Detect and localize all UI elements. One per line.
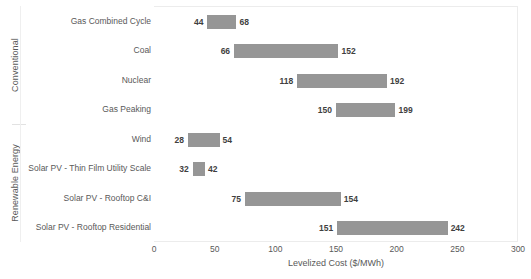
bar-low-value-label: 28 <box>175 133 184 147</box>
value-axis: 050100150200250300 <box>154 242 518 258</box>
x-axis-tick-label: 150 <box>329 244 343 254</box>
category-label: Solar PV - Rooftop Residential <box>36 222 151 232</box>
bar-low-value-label: 151 <box>319 221 333 235</box>
bar <box>234 44 338 58</box>
category-axis: Gas Combined CycleCoalNuclearGas Peaking… <box>22 6 154 242</box>
bar-high-value-label: 42 <box>208 162 217 176</box>
bar-high-value-label: 192 <box>390 74 404 88</box>
group-label-text: Conventional <box>10 38 20 92</box>
category-label: Solar PV - Rooftop C&I <box>64 193 151 203</box>
bar <box>337 221 447 235</box>
bar-low-value-label: 66 <box>221 44 230 58</box>
group-axis-line <box>20 6 21 242</box>
bar <box>245 192 341 206</box>
plot-area: 4468661521181921501992854324275154151242 <box>154 6 518 242</box>
levelized-cost-range-chart: ConventionalRenewable Energy Gas Combine… <box>0 0 531 279</box>
bar-low-value-label: 150 <box>318 103 332 117</box>
group-label-text: Renewable Energy <box>10 144 20 222</box>
category-label: Coal <box>134 45 151 55</box>
bar-high-value-label: 154 <box>344 192 358 206</box>
category-label: Solar PV - Thin Film Utility Scale <box>28 163 151 173</box>
bar <box>297 74 387 88</box>
bar <box>188 133 220 147</box>
category-label: Nuclear <box>122 75 151 85</box>
bar-low-value-label: 118 <box>279 74 293 88</box>
bar-high-value-label: 199 <box>398 103 412 117</box>
bar-high-value-label: 242 <box>451 221 465 235</box>
x-axis-tick-label: 300 <box>511 244 525 254</box>
bar-high-value-label: 68 <box>240 15 249 29</box>
bar <box>207 15 236 29</box>
bar <box>336 103 395 117</box>
x-axis-tick-label: 0 <box>152 244 157 254</box>
bar-high-value-label: 152 <box>341 44 355 58</box>
x-axis-tick-label: 100 <box>268 244 282 254</box>
bar-low-value-label: 44 <box>194 15 203 29</box>
x-axis-title: Levelized Cost ($/MWh) <box>154 258 518 268</box>
category-label: Wind <box>132 134 151 144</box>
x-axis-tick-label: 50 <box>210 244 219 254</box>
category-label: Gas Peaking <box>102 104 151 114</box>
bar-high-value-label: 54 <box>223 133 232 147</box>
x-axis-tick-label: 250 <box>450 244 464 254</box>
bar-low-value-label: 75 <box>232 192 241 206</box>
bar <box>193 162 205 176</box>
category-label: Gas Combined Cycle <box>71 16 151 26</box>
x-axis-tick-label: 200 <box>390 244 404 254</box>
bar-low-value-label: 32 <box>179 162 188 176</box>
